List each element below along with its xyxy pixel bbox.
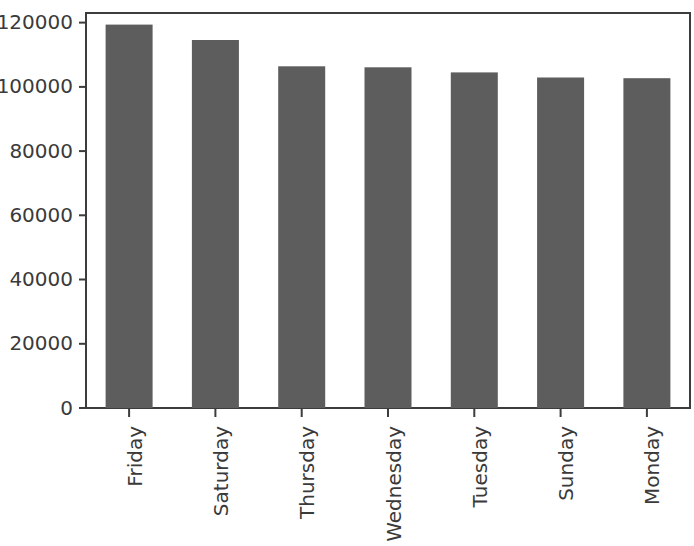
y-tick-label: 0	[60, 396, 73, 420]
bar	[537, 78, 584, 409]
y-tick-label: 40000	[9, 267, 73, 291]
bar	[192, 40, 239, 408]
x-tick-label: Wednesday	[382, 426, 406, 542]
bar	[623, 78, 670, 408]
x-tick-label: Friday	[123, 426, 147, 487]
y-tick-label: 20000	[9, 331, 73, 355]
y-tick-label: 80000	[9, 139, 73, 163]
x-tick-label: Saturday	[209, 426, 233, 516]
bar	[365, 67, 412, 408]
x-tick-label: Sunday	[554, 426, 578, 501]
x-tick-label: Thursday	[295, 426, 319, 520]
bar	[106, 25, 153, 408]
x-tick-label: Tuesday	[468, 426, 492, 509]
y-tick-label: 120000	[0, 10, 73, 34]
bar	[278, 66, 325, 408]
y-tick-label: 100000	[0, 74, 73, 98]
x-tick-label: Monday	[640, 426, 664, 505]
chart-canvas: 020000400006000080000100000120000 Friday…	[0, 0, 694, 546]
bar-chart-figure: 020000400006000080000100000120000 Friday…	[0, 0, 694, 546]
bar	[451, 72, 498, 408]
chart-background	[0, 0, 694, 546]
y-tick-label: 60000	[9, 203, 73, 227]
